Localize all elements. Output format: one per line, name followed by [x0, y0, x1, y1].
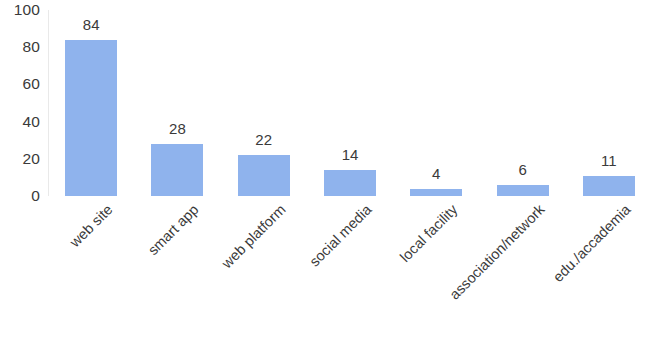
- bar-value-label: 4: [432, 166, 440, 181]
- bar-group: 11: [566, 10, 652, 196]
- bar-chart: 100806040200 842822144611 web sitesmart …: [0, 0, 652, 340]
- bar[interactable]: [324, 170, 376, 196]
- bar[interactable]: [583, 176, 635, 196]
- bar[interactable]: [238, 155, 290, 196]
- bar[interactable]: [410, 189, 462, 196]
- x-axis-tick-label: smart app: [146, 202, 203, 259]
- bar-value-label: 14: [342, 147, 359, 162]
- bar-group: 14: [307, 10, 393, 196]
- bar-value-label: 6: [518, 162, 526, 177]
- y-axis-tick-label: 40: [6, 114, 40, 130]
- bar-group: 28: [134, 10, 220, 196]
- bar[interactable]: [65, 40, 117, 196]
- y-axis: 100806040200: [0, 0, 40, 200]
- bar-value-label: 22: [255, 132, 272, 147]
- bar-group: 84: [48, 10, 134, 196]
- bar-group: 22: [221, 10, 307, 196]
- x-axis-tick-label: web platform: [219, 202, 289, 272]
- bar[interactable]: [151, 144, 203, 196]
- x-axis-tick-label: edu./accademia: [550, 202, 634, 286]
- bar-value-label: 11: [601, 153, 617, 168]
- bar-group: 6: [479, 10, 565, 196]
- x-axis-tick-label: social media: [307, 202, 375, 270]
- bar-group: 4: [393, 10, 479, 196]
- bar[interactable]: [497, 185, 549, 196]
- x-axis-tick-label: association/network: [447, 202, 548, 303]
- y-axis-tick-label: 100: [6, 2, 40, 18]
- x-axis-tick-label: local facility: [398, 202, 462, 266]
- y-axis-tick-label: 60: [6, 76, 40, 92]
- x-axis-tick-label: web site: [68, 202, 117, 251]
- y-axis-tick-label: 80: [6, 39, 40, 55]
- bar-value-label: 28: [169, 121, 186, 136]
- x-axis: web sitesmart appweb platformsocial medi…: [48, 202, 652, 340]
- y-axis-tick-label: 0: [6, 188, 40, 204]
- plot-area: 842822144611: [48, 10, 652, 196]
- bar-value-label: 84: [83, 17, 100, 32]
- y-axis-tick-label: 20: [6, 151, 40, 167]
